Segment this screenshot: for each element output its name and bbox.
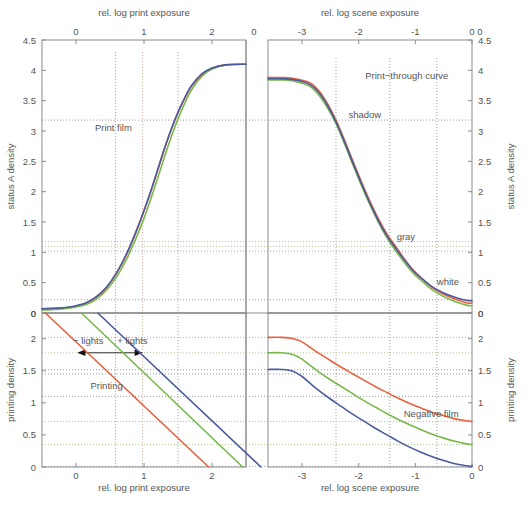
ticklabel-bottom-left-y: 0 <box>31 462 36 473</box>
axis-title-top-right-y: status A density <box>505 143 516 209</box>
ticklabel-bottom-left-y: 0.5 <box>23 429 36 440</box>
axis-title-bottom-left-x: rel. log print exposure <box>98 482 189 493</box>
four-quadrant-plot: 012-3-2-10012-3-2-1000.511.522.533.544.5… <box>0 0 531 506</box>
ticklabel-top-right-x: 0 <box>469 26 474 37</box>
ticklabel-bottom-right-y: 1 <box>478 397 483 408</box>
axis-title-top-left-y: status A density <box>5 143 16 209</box>
ticklabel-top-left-y: 0.5 <box>23 277 36 288</box>
ticklabel-top-left-y: 2.5 <box>23 156 36 167</box>
tone-reproduction-figure: 012-3-2-10012-3-2-1000.511.522.533.544.5… <box>0 0 531 506</box>
axis-title-bottom-left-y: printing density <box>5 358 16 422</box>
annotation-white: white <box>436 276 459 287</box>
corner-label-top-left-zero: 0 <box>251 26 256 37</box>
ticklabel-top-right-x: -2 <box>354 26 362 37</box>
ticklabel-top-left-y: 3.5 <box>23 95 36 106</box>
ticklabel-bottom-left-y: 1.5 <box>23 365 36 376</box>
annotation-gray: gray <box>397 231 416 242</box>
ticklabel-top-right-y: 0.5 <box>478 277 491 288</box>
annotation-plus-lights: + lights <box>117 335 148 346</box>
ticklabel-bottom-left-y: 0 <box>31 308 36 319</box>
ticklabel-top-right-x: -3 <box>298 26 306 37</box>
ticklabel-top-right-y: 2 <box>478 186 483 197</box>
ticklabel-bottom-left-x: 1 <box>141 470 146 481</box>
ticklabel-top-left-x: 0 <box>73 26 78 37</box>
corner-label-top-right-zero: 0 <box>477 26 482 37</box>
annotation-shadow: shadow <box>348 109 381 120</box>
ticklabel-bottom-left-y: 1 <box>31 397 36 408</box>
ticklabel-bottom-left-y: 2 <box>31 333 36 344</box>
axis-title-bottom-right-x: rel. log scene exposure <box>321 482 419 493</box>
ticklabel-top-left-x: 1 <box>141 26 146 37</box>
ticklabel-top-right-y: 3 <box>478 126 483 137</box>
annotation-minus-lights: − lights <box>73 335 104 346</box>
ticklabel-top-left-y: 1 <box>31 247 36 258</box>
axis-title-top-left-x: rel. log print exposure <box>98 7 189 18</box>
ticklabel-top-right-y: 4 <box>478 65 483 76</box>
ticklabel-top-right-y: 1.5 <box>478 217 491 228</box>
ticklabel-top-left-y: 2 <box>31 186 36 197</box>
ticklabel-top-right-x: -1 <box>411 26 419 37</box>
ticklabel-bottom-right-y: 1.5 <box>478 365 491 376</box>
ticklabel-top-right-y: 2.5 <box>478 156 491 167</box>
ticklabel-bottom-left-x: 0 <box>73 470 78 481</box>
figure-background <box>0 0 531 506</box>
panel-label-print-through: Print−through curve <box>365 70 448 81</box>
ticklabel-top-left-y: 1.5 <box>23 217 36 228</box>
panel-label-print-film: Print film <box>95 122 132 133</box>
ticklabel-bottom-right-x: -2 <box>354 470 362 481</box>
axis-title-top-right-x: rel. log scene exposure <box>321 7 419 18</box>
panel-label-printing: Printing <box>90 380 122 391</box>
ticklabel-top-right-y: 3.5 <box>478 95 491 106</box>
ticklabel-bottom-right-y: 0 <box>478 462 483 473</box>
ticklabel-top-left-y: 3 <box>31 126 36 137</box>
axis-title-bottom-right-y: printing density <box>505 358 516 422</box>
ticklabel-bottom-right-x: 0 <box>469 470 474 481</box>
ticklabel-top-left-y: 4 <box>31 65 36 76</box>
ticklabel-bottom-right-x: -3 <box>298 470 306 481</box>
ticklabel-bottom-right-y: 0 <box>478 308 483 319</box>
ticklabel-top-right-y: 1 <box>478 247 483 258</box>
ticklabel-bottom-right-y: 2 <box>478 333 483 344</box>
ticklabel-top-left-x: 2 <box>209 26 214 37</box>
ticklabel-bottom-left-x: 2 <box>209 470 214 481</box>
ticklabel-top-left-y: 4.5 <box>23 35 36 46</box>
panel-label-negative-film: Negative film <box>404 408 459 419</box>
ticklabel-bottom-right-y: 0.5 <box>478 429 491 440</box>
ticklabel-bottom-right-x: -1 <box>411 470 419 481</box>
